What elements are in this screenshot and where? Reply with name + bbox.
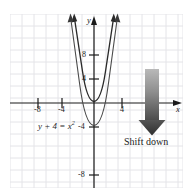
y-axis-label: y [87, 16, 91, 25]
equation-label: y + 4 = x2 [38, 120, 75, 131]
xtick-label-neg8: -8 [34, 106, 41, 114]
equation-text: y + 4 = x [38, 121, 72, 131]
shift-down-arrow [139, 69, 166, 136]
curve2-left-arrowhead [68, 14, 74, 23]
ytick-label-neg4: -4 [78, 123, 85, 131]
ytick-label-pos4: 4 [82, 75, 86, 83]
y-axis-arrowhead [91, 16, 97, 25]
curve2-right-arrowhead [115, 14, 121, 23]
x-axis-label: x [176, 105, 180, 114]
ytick-label-pos8: 8 [82, 51, 86, 59]
xtick-label-pos4: 4 [120, 106, 124, 114]
parabola-shift-figure: -8 -4 4 8 4 -4 -8 y x y + 4 = x2 Shift d… [0, 0, 189, 195]
shift-down-caption: Shift down [124, 137, 168, 147]
equation-exponent: 2 [72, 120, 75, 126]
ytick-label-neg8: -8 [78, 171, 85, 179]
xtick-label-neg4: -4 [58, 106, 65, 114]
graph-canvas [0, 0, 189, 195]
